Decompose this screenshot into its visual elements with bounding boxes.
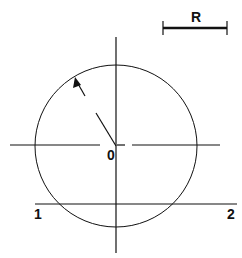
radius-line <box>96 113 116 146</box>
line-start-label: 1 <box>34 206 42 222</box>
center-label: 0 <box>107 147 115 163</box>
diagram-canvas: R 0 1 2 <box>0 0 242 258</box>
scale-label: R <box>191 9 201 25</box>
line-end-label: 2 <box>227 206 235 222</box>
radius-arrow-icon <box>73 77 85 96</box>
